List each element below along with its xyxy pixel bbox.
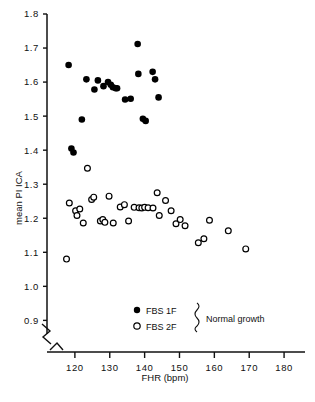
data-point bbox=[207, 217, 213, 223]
legend-marker-open-circle-icon bbox=[134, 323, 140, 329]
legend-marker-filled-circle-icon bbox=[134, 307, 140, 313]
legend-brace-icon bbox=[195, 303, 199, 332]
data-point bbox=[77, 206, 83, 212]
y-tick-label: 1.0 bbox=[24, 281, 39, 292]
data-point bbox=[177, 217, 183, 223]
chart-canvas: 0.91.01.11.21.31.41.51.61.71.8 mean PI I… bbox=[0, 0, 315, 402]
data-point bbox=[142, 118, 149, 125]
data-point bbox=[134, 41, 141, 48]
data-point bbox=[182, 223, 188, 229]
x-axis-ticks bbox=[75, 352, 284, 358]
data-point bbox=[79, 116, 86, 123]
x-axis-title: FHR (bpm) bbox=[142, 372, 189, 383]
data-point bbox=[66, 200, 72, 206]
data-point bbox=[122, 96, 129, 103]
data-point bbox=[156, 213, 162, 219]
series-fbs-2f-points bbox=[64, 165, 249, 262]
data-point bbox=[91, 194, 97, 200]
x-tick-label: 180 bbox=[275, 362, 293, 373]
y-tick-label: 1.8 bbox=[24, 8, 39, 19]
series-fbs-1f-points bbox=[65, 41, 162, 156]
y-tick-label: 1.5 bbox=[24, 111, 39, 122]
y-tick-label: 1.2 bbox=[24, 213, 39, 224]
data-point bbox=[150, 205, 156, 211]
data-point bbox=[64, 256, 70, 262]
data-point bbox=[74, 213, 80, 219]
x-axis: 120130140150160170180 FHR (bpm) bbox=[47, 352, 305, 383]
data-point bbox=[122, 202, 128, 208]
data-point bbox=[168, 208, 174, 214]
y-tick-label: 0.9 bbox=[24, 315, 39, 326]
y-tick-label: 1.1 bbox=[24, 247, 39, 258]
data-point bbox=[126, 218, 132, 224]
data-point bbox=[110, 220, 116, 226]
axis-break-marker bbox=[42, 324, 63, 350]
data-point bbox=[65, 62, 72, 69]
legend-label-fbs-1f: FBS 1F bbox=[146, 306, 177, 316]
data-point bbox=[152, 76, 159, 83]
legend-label-fbs-2f: FBS 2F bbox=[146, 322, 177, 332]
legend-bracket-label: Normal growth bbox=[206, 314, 265, 324]
x-tick-label: 170 bbox=[240, 362, 258, 373]
data-point bbox=[201, 236, 207, 242]
y-tick-label: 1.3 bbox=[24, 179, 39, 190]
chart-legend: FBS 1F FBS 2F Normal growth bbox=[134, 303, 265, 332]
data-point bbox=[163, 198, 169, 204]
data-point bbox=[155, 94, 162, 101]
data-point bbox=[225, 228, 231, 234]
data-point bbox=[149, 69, 156, 76]
x-tick-label: 130 bbox=[101, 362, 119, 373]
data-point bbox=[80, 220, 86, 226]
y-tick-label: 1.6 bbox=[24, 76, 39, 87]
data-point bbox=[154, 190, 160, 196]
y-tick-label: 1.7 bbox=[24, 42, 39, 53]
data-point bbox=[195, 240, 201, 246]
y-tick-label: 1.4 bbox=[24, 145, 39, 156]
data-point bbox=[85, 165, 91, 171]
data-point bbox=[83, 76, 90, 83]
y-axis-tick-labels: 0.91.01.11.21.31.41.51.61.71.8 bbox=[24, 8, 39, 325]
data-point bbox=[243, 246, 249, 252]
y-axis-title: mean PI ICA bbox=[13, 170, 24, 225]
data-point bbox=[70, 149, 77, 156]
x-tick-label: 120 bbox=[66, 362, 84, 373]
data-point bbox=[102, 219, 108, 225]
data-point bbox=[95, 77, 102, 84]
scatter-chart-figure: 0.91.01.11.21.31.41.51.61.71.8 mean PI I… bbox=[0, 0, 315, 402]
data-point bbox=[114, 85, 121, 92]
x-tick-label: 160 bbox=[206, 362, 224, 373]
data-point bbox=[106, 193, 112, 199]
data-point bbox=[127, 95, 134, 102]
y-axis: 0.91.01.11.21.31.41.51.61.71.8 mean PI I… bbox=[13, 8, 47, 334]
data-point bbox=[91, 86, 98, 93]
data-point bbox=[135, 71, 142, 78]
